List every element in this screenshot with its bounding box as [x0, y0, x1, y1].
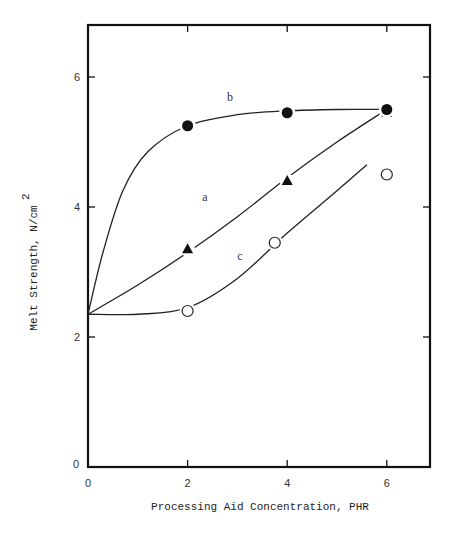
- curve-a: [88, 110, 387, 315]
- open-circle-marker: [182, 306, 193, 317]
- filled-circle-marker: [282, 107, 293, 118]
- curve-label-a: a: [202, 190, 208, 204]
- curve-b: [88, 109, 387, 314]
- y-tick-label: 4: [74, 201, 80, 213]
- filled-circle-marker: [381, 104, 392, 115]
- axis-ticks: [88, 25, 430, 467]
- x-tick-label: 2: [185, 477, 191, 489]
- x-tick-label: 0: [85, 477, 91, 489]
- open-circle-marker: [269, 237, 280, 248]
- axis-tick-labels: 0246246: [74, 71, 390, 489]
- melt-strength-chart: 0246246 abc Processing Aid Concentration…: [0, 0, 451, 533]
- open-circle-marker: [381, 169, 392, 180]
- y-origin-label: 0: [73, 458, 79, 470]
- y-axis-title-group: Melt Strength, N/cm 2: [20, 193, 40, 330]
- data-curves: [88, 109, 387, 314]
- curve-label-b: b: [227, 90, 233, 104]
- y-tick-label: 2: [74, 331, 80, 343]
- y-axis-title: Melt Strength, N/cm: [28, 205, 40, 331]
- curve-label-c: c: [237, 249, 242, 263]
- filled-circle-marker: [182, 120, 193, 131]
- x-axis-title: Processing Aid Concentration, PHR: [151, 501, 369, 513]
- y-tick-label: 6: [74, 71, 80, 83]
- x-tick-label: 4: [284, 477, 290, 489]
- curve-c: [88, 165, 367, 315]
- y-axis-superscript: 2: [20, 193, 32, 200]
- x-tick-label: 6: [384, 477, 390, 489]
- data-markers: [180, 102, 395, 320]
- plot-frame: [88, 25, 430, 467]
